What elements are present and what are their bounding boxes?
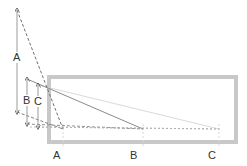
projection-line-a [17,10,63,129]
height-label-b: B [23,95,30,106]
projection-line-a-bottom [17,112,63,129]
point-label-a: A [53,150,60,161]
projection-line-b-bottom [27,124,143,129]
diagram-canvas: ABCABC [0,0,247,166]
diagram-svg [0,0,247,166]
point-label-c: C [208,150,216,161]
height-label-c: C [34,96,42,107]
projection-line-b [27,79,143,129]
height-label-a: A [13,52,20,63]
point-label-b: B [130,150,137,161]
